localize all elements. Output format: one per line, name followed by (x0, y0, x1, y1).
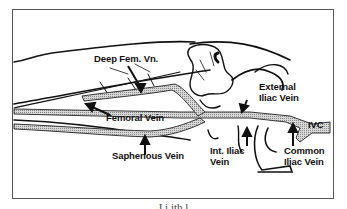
label-internal-iliac-vein-line1: Int. Iliac (210, 146, 244, 156)
label-common-iliac-vein-line1: Common (284, 146, 325, 156)
label-femoral-vein: Femoral Vein (106, 113, 164, 123)
label-internal-iliac-vein-line2: Vein (210, 157, 229, 167)
label-ivc: IVC (308, 120, 324, 130)
vein-anatomy-illustration (0, 0, 347, 209)
label-deep-femoral-vein: Deep Fem. Vn. (94, 54, 158, 64)
figure-caption-cutoff: I i ith l (0, 202, 347, 209)
label-common-iliac-vein-line2: Iliac Vein (284, 157, 324, 167)
label-saphenous-vein: Saphenous Vein (112, 151, 184, 161)
label-external-iliac-vein-line1: External (259, 82, 296, 92)
label-external-iliac-vein-line2: Iliac Vein (259, 93, 299, 103)
